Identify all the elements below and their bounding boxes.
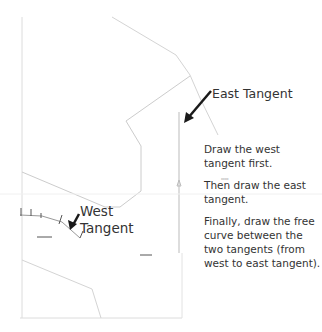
- west-tangent-label: West Tangent: [80, 203, 134, 237]
- west-label-line2: Tangent: [80, 220, 134, 237]
- boundary-south: [22, 260, 101, 318]
- east-tangent-label: East Tangent: [212, 86, 293, 101]
- west-label-line1: West: [80, 203, 134, 220]
- boundary-parcel: [22, 76, 190, 207]
- instruction-step-1: Draw the west tangent first.: [204, 142, 322, 170]
- instruction-step-3: Finally, draw the free curve between the…: [204, 214, 322, 270]
- instruction-step-2: Then draw the east tangent.: [204, 178, 322, 206]
- east-pointer-arrow-icon: [184, 91, 211, 123]
- instructions-panel: Draw the west tangent first. Then draw t…: [204, 142, 322, 278]
- boundary-north: [112, 17, 218, 135]
- west-pointer-arrow-icon: [68, 214, 79, 230]
